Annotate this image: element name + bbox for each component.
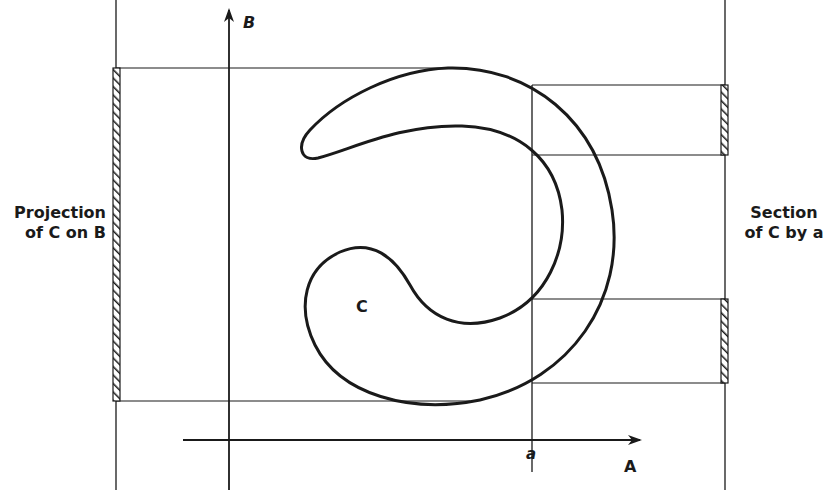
projection-annotation-line1: Projection xyxy=(6,203,106,223)
b-axis-label: B xyxy=(243,13,255,33)
section-bar-lower xyxy=(721,299,728,383)
diagram-canvas xyxy=(0,0,833,498)
projection-annotation: Projection of C on B xyxy=(6,203,106,243)
section-annotation-line1: Section xyxy=(738,203,830,223)
section-annotation-line2: of C by a xyxy=(738,223,830,243)
shape-c-label: C xyxy=(356,297,368,317)
shape-c xyxy=(302,68,615,405)
section-bar-upper xyxy=(721,85,728,155)
section-line-label: a xyxy=(526,444,536,464)
section-annotation: Section of C by a xyxy=(738,203,830,243)
a-axis-label: A xyxy=(624,457,636,477)
projection-bar xyxy=(113,68,120,401)
projection-annotation-line2: of C on B xyxy=(6,223,106,243)
